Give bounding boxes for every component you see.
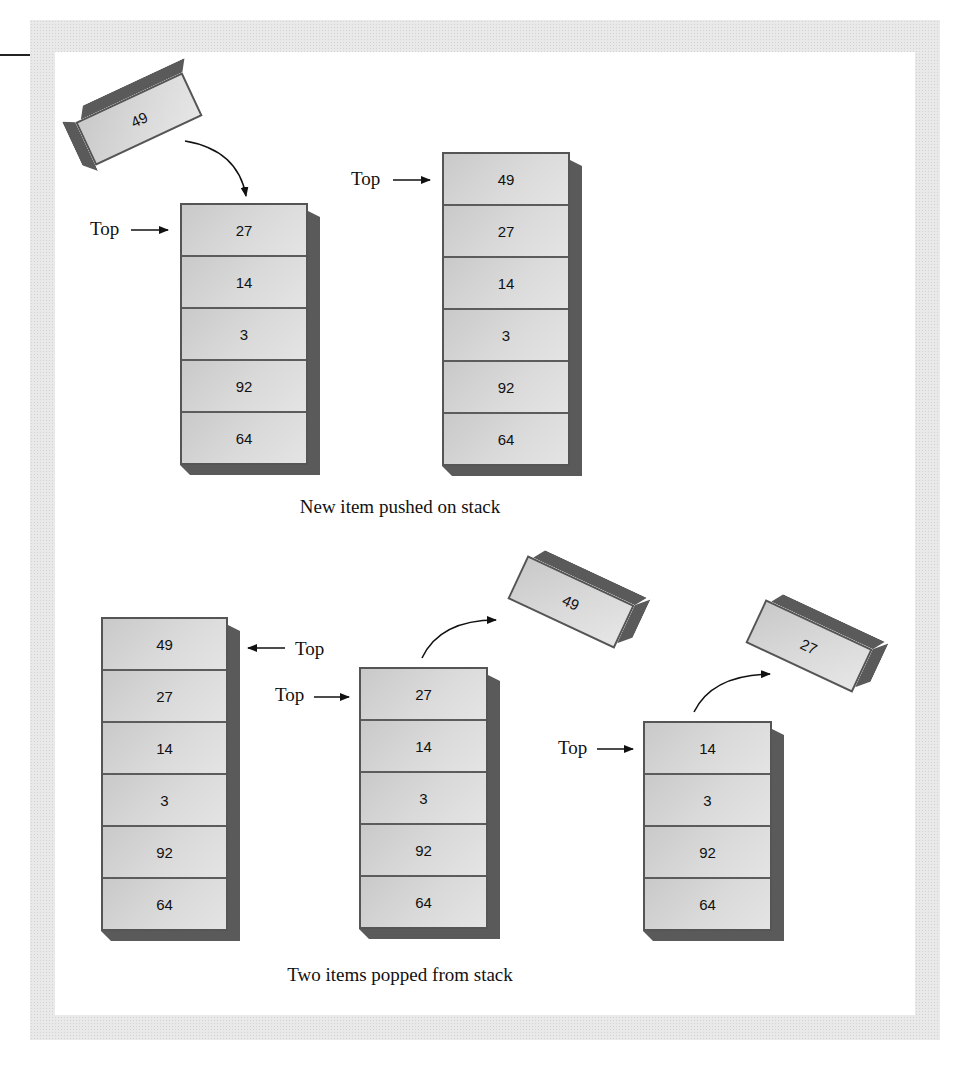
stack-cell: 92 — [103, 825, 226, 877]
stack-before-push: 27 14 3 92 64 — [180, 203, 308, 465]
stack-cell: 49 — [103, 619, 226, 669]
stack-cell: 64 — [444, 412, 568, 464]
push-caption: New item pushed on stack — [250, 496, 550, 518]
stack-cell: 92 — [645, 825, 770, 877]
top-label: Top — [351, 168, 380, 190]
top-label: Top — [90, 218, 119, 240]
stack-cell: 49 — [444, 154, 568, 204]
popped-block-first-value: 49 — [560, 591, 582, 613]
stack-cell: 14 — [103, 721, 226, 773]
stack-after-first-pop: 27 14 3 92 64 — [359, 667, 488, 929]
stack-cell: 14 — [361, 719, 486, 771]
stack-cell: 27 — [182, 205, 306, 255]
corner-rule — [0, 54, 30, 56]
pop-caption: Two items popped from stack — [250, 964, 550, 986]
top-label: Top — [295, 638, 324, 660]
stack-cell: 14 — [182, 255, 306, 307]
stack-cell: 27 — [444, 204, 568, 256]
stack-cell: 27 — [103, 669, 226, 721]
stack-cell: 92 — [361, 823, 486, 875]
stack-cell: 92 — [182, 359, 306, 411]
stack-after-second-pop: 14 3 92 64 — [643, 721, 772, 931]
stack-cell: 14 — [444, 256, 568, 308]
stack-cell: 64 — [361, 875, 486, 927]
incoming-block-value: 49 — [128, 108, 150, 130]
stack-cell: 64 — [182, 411, 306, 463]
top-label: Top — [558, 737, 587, 759]
top-label: Top — [275, 684, 304, 706]
popped-block-second-value: 27 — [798, 635, 820, 657]
stack-cell: 64 — [103, 877, 226, 929]
stack-cell: 3 — [361, 771, 486, 823]
stack-cell: 64 — [645, 877, 770, 929]
stack-after-push: 49 27 14 3 92 64 — [442, 152, 570, 466]
stack-initial: 49 27 14 3 92 64 — [101, 617, 228, 931]
stack-cell: 3 — [444, 308, 568, 360]
stack-cell: 14 — [645, 723, 770, 773]
stack-cell: 92 — [444, 360, 568, 412]
stack-cell: 3 — [645, 773, 770, 825]
stack-cell: 27 — [361, 669, 486, 719]
stack-cell: 3 — [103, 773, 226, 825]
stack-cell: 3 — [182, 307, 306, 359]
